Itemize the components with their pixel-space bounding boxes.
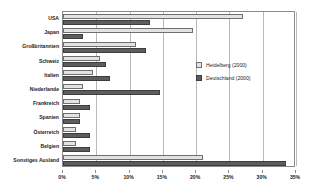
tick-mark xyxy=(195,170,196,173)
tick-label: 10% xyxy=(123,174,133,180)
tick-label: 30% xyxy=(257,174,267,180)
legend-label: Deutschland (2000) xyxy=(206,75,250,81)
gridline xyxy=(296,12,297,166)
bar-group xyxy=(63,26,294,40)
bar-deutschland xyxy=(63,147,90,152)
category-label: Großbritannien xyxy=(0,43,59,49)
category-label: USA xyxy=(0,15,59,21)
tick-mark xyxy=(295,170,296,173)
plot-area xyxy=(62,11,295,167)
legend-item-deutschland[interactable]: Deutschland (2000) xyxy=(196,75,280,81)
tick-mark xyxy=(95,170,96,173)
x-axis-tick-labels: 0%5%10%15%20%25%30%35% xyxy=(62,170,295,180)
bar-group xyxy=(63,154,294,168)
bar-heidelberg xyxy=(63,14,243,19)
tick-label: 25% xyxy=(223,174,233,180)
bar-heidelberg xyxy=(63,70,93,75)
bar-deutschland xyxy=(63,34,83,39)
bar-chart: USAJapanGroßbritannienSchweizItalienNied… xyxy=(0,0,312,186)
tick-mark xyxy=(262,170,263,173)
bar-deutschland xyxy=(63,20,150,25)
bar-heidelberg xyxy=(63,99,80,104)
bar-heidelberg xyxy=(63,141,76,146)
bar-heidelberg xyxy=(63,127,76,132)
category-label: Schweiz xyxy=(0,58,59,64)
bar-deutschland xyxy=(63,62,106,67)
bar-group xyxy=(63,140,294,154)
bar-group xyxy=(63,125,294,139)
bar-group xyxy=(63,40,294,54)
bar-rows xyxy=(63,12,294,166)
category-label: Niederlande xyxy=(0,86,59,92)
bar-group xyxy=(63,12,294,26)
category-label: Sonstiges Ausland xyxy=(0,157,59,163)
legend-swatch-icon xyxy=(196,75,202,81)
category-label: Österreich xyxy=(0,129,59,135)
legend-item-heidelberg[interactable]: Heidelberg (2000) xyxy=(196,62,280,68)
tick-mark xyxy=(162,170,163,173)
tick-label: 20% xyxy=(190,174,200,180)
tick-mark xyxy=(62,170,63,173)
bar-deutschland xyxy=(63,133,90,138)
bar-deutschland xyxy=(63,90,160,95)
category-label: Japan xyxy=(0,29,59,35)
bar-deutschland xyxy=(63,48,146,53)
bar-heidelberg xyxy=(63,113,80,118)
bar-deutschland xyxy=(63,76,110,81)
bar-heidelberg xyxy=(63,28,193,33)
bar-deutschland xyxy=(63,105,90,110)
bar-heidelberg xyxy=(63,84,83,89)
bar-group xyxy=(63,111,294,125)
chart-legend: Heidelberg (2000) Deutschland (2000) xyxy=(196,62,280,88)
category-label: Italien xyxy=(0,72,59,78)
category-label: Frankreich xyxy=(0,100,59,106)
bar-heidelberg xyxy=(63,42,136,47)
bar-heidelberg xyxy=(63,155,203,160)
legend-label: Heidelberg (2000) xyxy=(206,62,247,68)
tick-label: 0% xyxy=(58,174,65,180)
tick-label: 15% xyxy=(157,174,167,180)
category-label: Spanien xyxy=(0,114,59,120)
tick-label: 5% xyxy=(92,174,99,180)
category-label: Belgien xyxy=(0,143,59,149)
tick-mark xyxy=(129,170,130,173)
bar-deutschland xyxy=(63,119,80,124)
legend-swatch-icon xyxy=(196,62,202,68)
bar-deutschland xyxy=(63,161,286,166)
tick-mark xyxy=(228,170,229,173)
bar-group xyxy=(63,97,294,111)
tick-label: 35% xyxy=(290,174,300,180)
bar-heidelberg xyxy=(63,56,100,61)
